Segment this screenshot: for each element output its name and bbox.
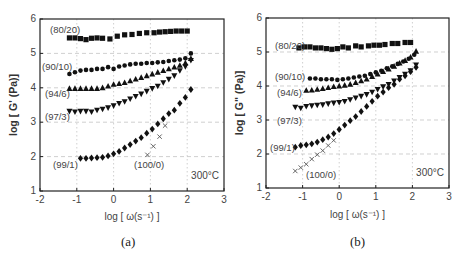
data-point bbox=[128, 62, 133, 67]
data-point bbox=[357, 74, 362, 79]
data-point bbox=[392, 81, 397, 88]
data-point bbox=[100, 67, 105, 72]
data-point bbox=[342, 99, 348, 105]
data-point bbox=[342, 122, 347, 129]
x-tick-label: 0 bbox=[336, 191, 342, 202]
data-point bbox=[94, 154, 99, 161]
data-point bbox=[138, 74, 144, 80]
data-series bbox=[145, 123, 167, 157]
data-point bbox=[133, 94, 139, 100]
data-point bbox=[337, 126, 342, 133]
data-point bbox=[89, 68, 94, 73]
data-point bbox=[139, 61, 144, 66]
data-point bbox=[358, 94, 364, 100]
data-point bbox=[144, 30, 149, 35]
x-tick-label: -2 bbox=[36, 194, 45, 205]
data-point bbox=[308, 76, 313, 81]
data-point bbox=[172, 107, 177, 114]
x-tick-label: 3 bbox=[221, 194, 227, 205]
data-point bbox=[107, 36, 112, 41]
data-point bbox=[161, 115, 166, 122]
series-label: (100/0) bbox=[134, 159, 164, 170]
data-point bbox=[157, 29, 162, 34]
y-axis-label: log [ G' (Pa)] bbox=[7, 74, 19, 136]
data-point bbox=[144, 61, 149, 66]
data-point bbox=[321, 148, 325, 152]
x-tick-label: -1 bbox=[298, 191, 307, 202]
data-point bbox=[375, 87, 381, 93]
x-tick-label: 2 bbox=[410, 191, 416, 202]
data-point bbox=[336, 83, 342, 89]
data-point bbox=[369, 90, 375, 96]
data-point bbox=[166, 66, 172, 72]
data-point bbox=[138, 92, 144, 98]
data-series bbox=[292, 63, 419, 112]
y-tick-label: 4 bbox=[256, 80, 262, 91]
data-point bbox=[315, 139, 320, 146]
data-point bbox=[111, 67, 116, 72]
data-point bbox=[330, 77, 335, 82]
panel-a-caption: (a) bbox=[121, 234, 135, 250]
data-point bbox=[324, 77, 329, 82]
data-point bbox=[370, 98, 375, 105]
series-label: (90/10) bbox=[42, 61, 72, 72]
x-tick-label: 0 bbox=[111, 194, 117, 205]
data-point bbox=[155, 84, 161, 90]
y-tick-label: 5 bbox=[256, 46, 262, 57]
data-point bbox=[402, 40, 407, 45]
data-point bbox=[168, 29, 173, 34]
data-point bbox=[315, 152, 319, 156]
data-point bbox=[346, 76, 351, 81]
data-point bbox=[353, 79, 359, 85]
data-point bbox=[122, 63, 127, 68]
data-series bbox=[67, 51, 193, 76]
data-point bbox=[303, 104, 309, 110]
data-point bbox=[167, 59, 172, 64]
data-point bbox=[381, 89, 386, 96]
data-point bbox=[111, 103, 117, 109]
data-point bbox=[390, 41, 395, 46]
data-point bbox=[144, 130, 149, 137]
series-label: (80/20) bbox=[50, 24, 80, 35]
data-point bbox=[157, 134, 161, 138]
data-point bbox=[133, 138, 138, 145]
data-point bbox=[122, 99, 128, 105]
data-point bbox=[352, 75, 357, 80]
data-point bbox=[395, 41, 400, 46]
data-point bbox=[326, 143, 330, 147]
data-point bbox=[183, 56, 188, 61]
data-point bbox=[144, 73, 150, 79]
data-point bbox=[117, 64, 122, 69]
series-label: (94/6) bbox=[277, 87, 302, 98]
data-point bbox=[382, 42, 387, 47]
data-point bbox=[182, 64, 188, 70]
data-point bbox=[331, 130, 336, 137]
data-point bbox=[386, 84, 391, 91]
data-point bbox=[163, 29, 168, 34]
data-point bbox=[177, 62, 183, 68]
data-point bbox=[78, 68, 83, 73]
data-point bbox=[105, 83, 111, 89]
x-tick-label: 1 bbox=[373, 191, 379, 202]
data-point bbox=[73, 70, 78, 75]
data-point bbox=[133, 61, 138, 66]
data-point bbox=[340, 44, 345, 49]
data-point bbox=[122, 79, 128, 85]
data-point bbox=[318, 45, 323, 50]
y-tick-label: 3 bbox=[256, 114, 262, 125]
data-point bbox=[185, 28, 190, 33]
data-point bbox=[346, 45, 351, 50]
figure: -2-10123123456log [ ω(s⁻¹) ]log [ G' (Pa… bbox=[0, 0, 465, 262]
data-point bbox=[189, 51, 194, 56]
panel-b-chart: -2-10123123456log [ ω(s⁻¹) ]log [ G" (Pa… bbox=[233, 12, 452, 220]
data-point bbox=[292, 105, 298, 111]
data-point bbox=[353, 113, 358, 120]
data-point bbox=[163, 123, 167, 127]
data-point bbox=[128, 141, 133, 148]
data-point bbox=[150, 61, 155, 66]
data-point bbox=[78, 36, 83, 41]
x-axis-label: log [ ω(s⁻¹) ] bbox=[330, 209, 385, 220]
data-point bbox=[89, 36, 94, 41]
data-point bbox=[160, 80, 166, 86]
y-tick-label: 2 bbox=[256, 148, 262, 159]
